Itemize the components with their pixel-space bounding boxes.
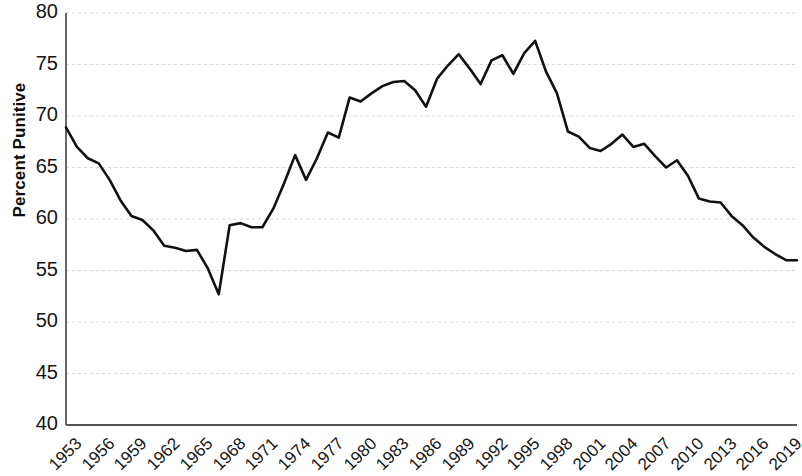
- percent-punitive-line-chart: Percent Punitive 404550556065707580 1953…: [0, 0, 802, 476]
- gridlines: [66, 13, 797, 425]
- plot-area: [0, 0, 802, 476]
